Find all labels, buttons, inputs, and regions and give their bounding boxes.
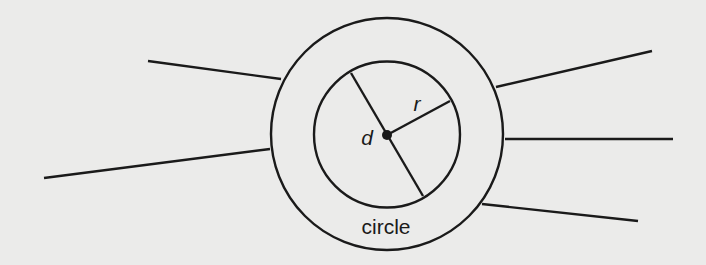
circle-diagram: d r circle [0,0,706,265]
ray-line-bottom-left [44,149,270,178]
ray-line-top-right [496,51,652,87]
circle-label: circle [361,215,410,238]
diameter-label: d [361,126,374,149]
ray-line-top-left [148,61,281,79]
center-point [382,130,392,140]
ray-line-bottom-right [482,204,638,221]
diagram-svg: d r circle [0,0,706,265]
radius-label: r [414,92,422,115]
